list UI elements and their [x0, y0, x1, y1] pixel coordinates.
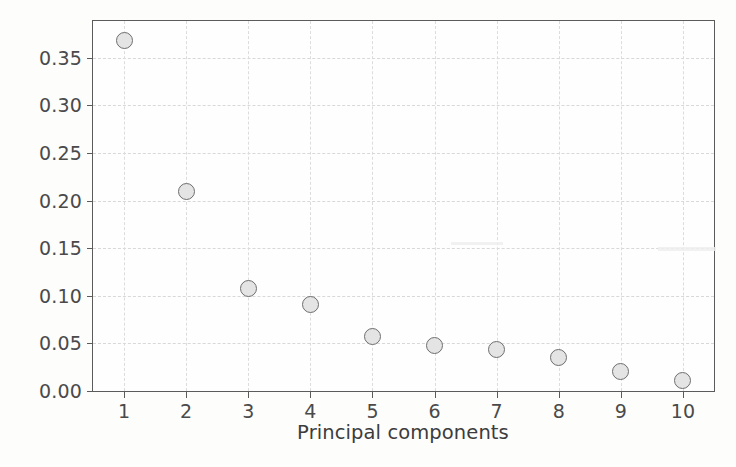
y-axis-tick: [87, 153, 93, 154]
x-axis-tick: [621, 391, 622, 398]
gridline-horizontal: [93, 153, 714, 154]
x-axis-tick-label: 7: [491, 400, 503, 422]
data-points: [93, 21, 714, 391]
x-axis-tick-label: 5: [366, 400, 378, 422]
data-point: [240, 280, 257, 297]
y-axis-tick: [87, 296, 93, 297]
gridline-horizontal: [93, 343, 714, 344]
x-axis-tick-label: 9: [615, 400, 627, 422]
x-axis-tick-label: 2: [180, 400, 192, 422]
gridline-vertical: [683, 21, 684, 391]
y-axis-tick: [87, 391, 93, 392]
y-axis-tick-label: 0.15: [39, 237, 82, 259]
gridline-vertical: [186, 21, 187, 391]
gridline-horizontal: [93, 248, 714, 249]
y-axis-tick-label: 0.10: [39, 285, 82, 307]
x-axis-tick: [186, 391, 187, 398]
data-point: [674, 372, 691, 389]
data-point: [116, 32, 133, 49]
y-axis-tick: [87, 58, 93, 59]
x-axis-tick-label: 6: [429, 400, 441, 422]
x-axis-tick: [497, 391, 498, 398]
gridline-vertical: [497, 21, 498, 391]
x-axis-tick: [248, 391, 249, 398]
gridline-vertical: [372, 21, 373, 391]
y-axis-tick-label: 0.35: [39, 47, 82, 69]
gridline-horizontal: [93, 201, 714, 202]
x-axis-tick: [124, 391, 125, 398]
gridline-horizontal: [93, 105, 714, 106]
scan-streak: [451, 242, 503, 245]
y-axis-tick-label: 0.20: [39, 190, 82, 212]
scan-artifacts: [93, 21, 714, 391]
x-axis-tick: [310, 391, 311, 398]
y-axis-tick-label: 0.25: [39, 142, 82, 164]
data-point: [612, 363, 629, 380]
y-axis-tick: [87, 248, 93, 249]
gridline-horizontal: [93, 296, 714, 297]
y-axis-tick-label: 0.05: [39, 332, 82, 354]
data-point: [364, 328, 381, 345]
y-axis-tick: [87, 105, 93, 106]
gridline-vertical: [621, 21, 622, 391]
x-axis-tick-label: 10: [671, 400, 695, 422]
gridline-horizontal: [93, 58, 714, 59]
x-axis-tick: [559, 391, 560, 398]
gridline-vertical: [310, 21, 311, 391]
gridline-vertical: [435, 21, 436, 391]
data-point: [488, 341, 505, 358]
x-axis-tick-label: 8: [553, 400, 565, 422]
y-axis-tick-label: 0.00: [39, 380, 82, 402]
data-point: [426, 337, 443, 354]
data-point: [550, 349, 567, 366]
gridline-vertical: [248, 21, 249, 391]
y-axis-tick-label: 0.30: [39, 94, 82, 116]
gridline-vertical: [559, 21, 560, 391]
scree-plot-figure: Explainec variance ratio Principal compo…: [0, 0, 736, 467]
data-point: [302, 296, 319, 313]
x-axis-tick: [372, 391, 373, 398]
gridline-vertical: [124, 21, 125, 391]
x-axis-tick: [683, 391, 684, 398]
gridlines: [93, 21, 714, 391]
x-axis-tick-label: 1: [118, 400, 130, 422]
y-axis-tick: [87, 201, 93, 202]
x-axis-tick-label: 4: [304, 400, 316, 422]
x-axis-tick-label: 3: [242, 400, 254, 422]
scan-streak: [658, 247, 716, 251]
x-axis-label: Principal components: [297, 421, 509, 444]
x-axis-tick: [435, 391, 436, 398]
data-point: [178, 183, 195, 200]
plot-area: 0.000.050.100.150.200.250.300.3512345678…: [92, 20, 715, 392]
y-axis-tick: [87, 343, 93, 344]
